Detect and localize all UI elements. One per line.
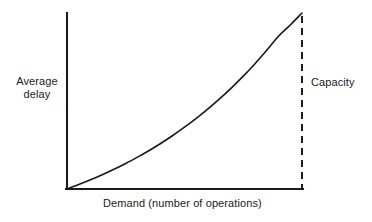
y-axis-label-line-1: Average: [8, 75, 66, 88]
y-axis-label-line-2: delay: [8, 88, 66, 101]
chart-canvas: [0, 0, 372, 222]
capacity-annotation-label: Capacity: [311, 76, 355, 89]
delay-curve: [67, 13, 302, 189]
x-axis-label: Demand (number of operations): [103, 197, 262, 210]
y-axis-label: Average delay: [8, 75, 66, 101]
chart-figure: Average delay Capacity Demand (number of…: [0, 0, 372, 222]
